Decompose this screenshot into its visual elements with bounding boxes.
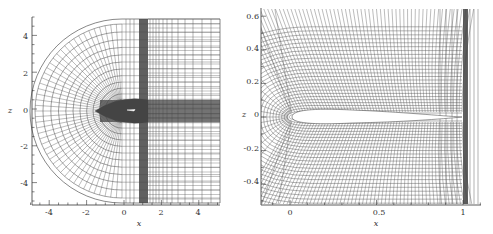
right-ytick: 0 <box>254 110 259 119</box>
right-mesh-panel: 0 0.5 1 x 0.6 0.4 0.2 0 -0.2 -0.4 z <box>240 0 493 234</box>
right-ytick: -0.2 <box>244 144 259 153</box>
left-xlabel: x <box>137 219 142 228</box>
left-ytick: -4 <box>20 179 28 188</box>
right-xtick: 1 <box>460 208 465 217</box>
left-ylabel: z <box>7 106 13 115</box>
left-mesh-plot: -4 -2 0 2 4 x 4 2 0 -2 -4 z <box>0 0 240 234</box>
right-xlabel: x <box>374 219 379 228</box>
left-xtick: 0 <box>121 208 126 217</box>
left-xtick: 4 <box>195 208 200 217</box>
right-xtick: 0 <box>287 208 292 217</box>
right-ytick: 0.2 <box>246 77 259 86</box>
left-ytick: 2 <box>23 69 28 78</box>
right-xtick: 0.5 <box>373 208 386 217</box>
near-field-mesh <box>240 0 482 234</box>
right-ytick: -0.4 <box>244 177 259 186</box>
right-mesh-plot: 0 0.5 1 x 0.6 0.4 0.2 0 -0.2 -0.4 z <box>240 0 493 234</box>
right-ylabel: z <box>241 110 247 119</box>
right-ytick: 0.6 <box>246 12 259 21</box>
left-ytick: 4 <box>23 32 28 41</box>
right-ytick: 0.4 <box>246 44 259 53</box>
left-xtick: 2 <box>158 208 163 217</box>
left-mesh-panel: -4 -2 0 2 4 x 4 2 0 -2 -4 z <box>0 0 240 234</box>
left-xtick: -2 <box>82 208 90 217</box>
left-ytick: -2 <box>20 142 28 151</box>
far-field-mesh <box>30 19 220 203</box>
left-xtick: -4 <box>45 208 53 217</box>
left-ytick: 0 <box>23 106 28 115</box>
